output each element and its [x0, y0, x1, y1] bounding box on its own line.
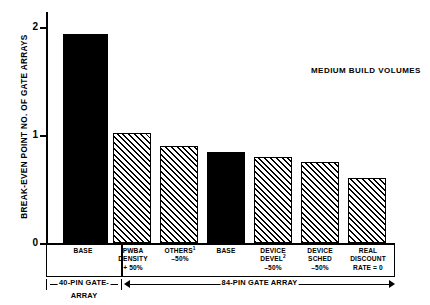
footnote-marker-1: 1 — [193, 246, 196, 251]
category-label-line: SCHED — [299, 255, 341, 263]
bar-base-40 — [63, 34, 108, 243]
category-label-line: BASE — [206, 247, 246, 255]
bar-device-sched — [301, 162, 339, 243]
group-label-40-pin-line2: ARRAY — [46, 291, 122, 300]
bracket-cap-right — [121, 279, 122, 290]
category-label-line: OTHERS1 — [159, 247, 201, 255]
category-label-line: DENSITY — [113, 255, 153, 263]
y-axis-line — [46, 12, 48, 244]
category-label-line: PWBA — [113, 247, 153, 255]
category-label-text: DEVEL — [260, 255, 283, 262]
category-label-base-40: BASE — [46, 247, 120, 255]
category-label-device-devel: DEVICE DEVEL2 –50% — [252, 247, 294, 272]
chart-annotation: MEDIUM BUILD VOLUMES — [311, 66, 421, 75]
category-label-line: –50% — [252, 264, 294, 272]
category-label-text: OTHERS — [164, 247, 192, 254]
category-label-line: DEVICE — [299, 247, 341, 255]
category-label-line: REAL — [344, 247, 392, 255]
category-label-line: DISCOUNT — [344, 255, 392, 263]
category-label-real-discount: REAL DISCOUNT RATE = 0 — [344, 247, 392, 272]
break-even-bar-chart: 2 1 0 BREAK-EVEN POINT NO. OF GATE ARRAY… — [0, 0, 430, 305]
bar-others — [160, 146, 198, 243]
y-tick-2 — [40, 27, 47, 29]
footnote-marker-2: 2 — [283, 254, 286, 259]
category-label-line: BASE — [46, 247, 120, 255]
group-label-40-pin: 40-PIN GATE- — [58, 278, 111, 287]
bar-pwba-density — [113, 133, 151, 243]
group-bracket-84-pin: 84-PIN GATE ARRAY — [124, 278, 395, 292]
bar-device-devel — [254, 157, 292, 243]
category-label-others: OTHERS1 –50% — [159, 247, 201, 264]
bar-real-discount — [348, 178, 386, 243]
y-axis-title: BREAK-EVEN POINT NO. OF GATE ARRAYS — [20, 17, 29, 237]
bracket-arrow-left — [124, 280, 130, 288]
bracket-arrow-right — [389, 280, 395, 288]
y-tick-label-0: 0 — [24, 238, 38, 248]
group-bracket-40-pin: 40-PIN GATE- — [46, 278, 122, 292]
bracket-cap-left — [46, 279, 47, 290]
group-label-84-pin: 84-PIN GATE ARRAY — [220, 278, 299, 287]
category-label-line: –50% — [299, 264, 341, 272]
category-label-line: RATE = 0 — [344, 264, 392, 272]
category-label-line: –50% — [159, 255, 201, 263]
category-label-device-sched: DEVICE SCHED –50% — [299, 247, 341, 272]
category-label-line: DEVEL2 — [252, 255, 294, 263]
category-label-line: + 50% — [113, 264, 153, 272]
bar-base-84 — [207, 152, 245, 243]
category-label-pwba-density: PWBA DENSITY + 50% — [113, 247, 153, 272]
category-label-base-84: BASE — [206, 247, 246, 255]
y-tick-1 — [40, 135, 47, 137]
